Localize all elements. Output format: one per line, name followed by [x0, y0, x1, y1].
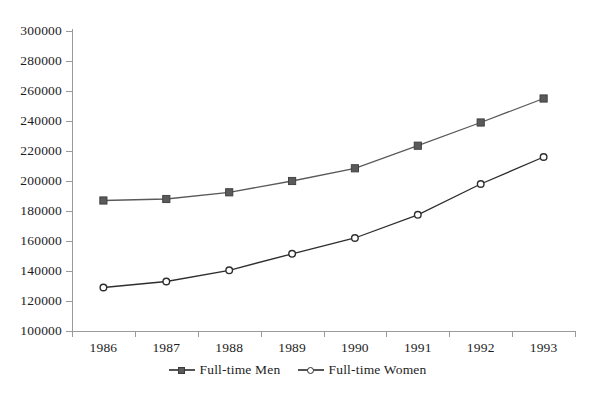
y-axis-tick-label: 160000 — [0, 234, 62, 248]
chart-legend: Full-time Men Full-time Women — [0, 362, 596, 378]
x-axis-tick — [449, 331, 450, 337]
y-axis-tick — [66, 151, 73, 152]
data-point-marker-square — [351, 165, 358, 172]
legend-label-full-time-women: Full-time Women — [328, 362, 426, 378]
y-axis-tick — [66, 91, 73, 92]
series-line — [103, 99, 543, 201]
series-line — [103, 157, 543, 288]
x-axis-tick-label: 1993 — [509, 340, 579, 356]
data-point-marker-square — [477, 119, 484, 126]
data-point-marker-square — [226, 189, 233, 196]
y-axis-tick-label: 280000 — [0, 54, 62, 68]
y-axis-tick — [66, 181, 73, 182]
x-axis-tick-label: 1989 — [257, 340, 327, 356]
legend-label-full-time-men: Full-time Men — [199, 362, 280, 378]
data-point-marker-circle — [415, 212, 422, 219]
x-axis-tick-label: 1990 — [320, 340, 390, 356]
y-axis-tick-label: 260000 — [0, 84, 62, 98]
x-axis-tick-label: 1991 — [383, 340, 453, 356]
y-axis-tick-label: 200000 — [0, 174, 62, 188]
x-axis-tick — [324, 331, 325, 337]
data-point-marker-circle — [226, 267, 233, 274]
y-axis-tick — [66, 301, 73, 302]
x-axis-tick — [198, 331, 199, 337]
y-axis-tick-label: 140000 — [0, 264, 62, 278]
legend-item-full-time-men[interactable]: Full-time Men — [169, 362, 280, 378]
data-point-marker-square — [414, 142, 421, 149]
y-axis-tick-label: 240000 — [0, 114, 62, 128]
data-point-marker-square — [163, 195, 170, 202]
x-axis-tick — [512, 331, 513, 337]
y-axis-tick — [66, 241, 73, 242]
data-point-marker-circle — [540, 154, 547, 161]
series-full-time-men — [100, 95, 547, 204]
x-axis-tick — [575, 331, 576, 337]
y-axis-tick — [66, 121, 73, 122]
x-axis-tick-label: 1986 — [68, 340, 138, 356]
line-chart: 3000002800002600002400002200002000001800… — [0, 0, 596, 408]
legend-marker-circle-icon — [298, 364, 324, 376]
series-full-time-women — [100, 154, 547, 291]
data-point-marker-square — [289, 177, 296, 184]
data-point-marker-square — [100, 197, 107, 204]
y-axis-tick — [66, 61, 73, 62]
x-axis-tick-label: 1988 — [194, 340, 264, 356]
y-axis-tick-label: 120000 — [0, 294, 62, 308]
y-axis-tick-label: 220000 — [0, 144, 62, 158]
y-axis-tick — [66, 211, 73, 212]
legend-item-full-time-women[interactable]: Full-time Women — [298, 362, 426, 378]
y-axis-tick-label: 300000 — [0, 24, 62, 38]
x-axis-tick — [386, 331, 387, 337]
y-axis-tick-label: 180000 — [0, 204, 62, 218]
y-axis-tick-label: 100000 — [0, 324, 62, 338]
data-point-marker-circle — [163, 278, 170, 285]
y-axis-tick — [66, 31, 73, 32]
data-point-marker-square — [540, 95, 547, 102]
x-axis-tick-label: 1987 — [131, 340, 201, 356]
data-point-marker-circle — [477, 181, 484, 188]
data-point-marker-circle — [100, 284, 107, 291]
data-point-marker-circle — [352, 235, 359, 242]
x-axis-tick-label: 1992 — [446, 340, 516, 356]
x-axis-tick — [72, 331, 73, 337]
x-axis-tick — [135, 331, 136, 337]
x-axis-tick — [261, 331, 262, 337]
y-axis-tick — [66, 271, 73, 272]
data-point-marker-circle — [289, 251, 296, 258]
legend-marker-square-icon — [169, 364, 195, 376]
